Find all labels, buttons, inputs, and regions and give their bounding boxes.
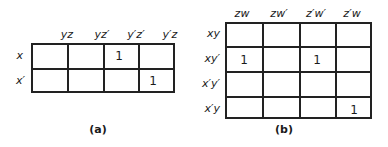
cell-value: 1	[307, 53, 327, 67]
karnaugh-map-b: zw zw′ z′w′ z′w xy xy′ x′y′ x′y 1 1 1 (b…	[0, 0, 388, 147]
cell-value: 1	[234, 53, 254, 67]
row-label: x′y′	[190, 77, 220, 90]
row-label: x′y	[190, 102, 220, 115]
row-label: xy	[190, 27, 220, 40]
column-label: z′w′	[296, 7, 336, 20]
column-label: z′w	[332, 7, 372, 20]
column-label: zw	[222, 7, 262, 20]
row-label: xy′	[190, 52, 220, 65]
caption: (b)	[264, 123, 304, 136]
column-label: zw′	[259, 7, 299, 20]
cell-value: 1	[344, 103, 364, 117]
